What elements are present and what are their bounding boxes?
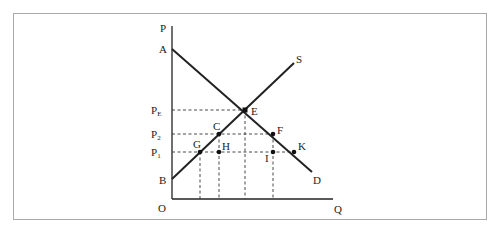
origin-label: O [158, 202, 166, 214]
point-label-k: K [298, 140, 306, 152]
price-label-p1: P1 [151, 146, 161, 160]
price-label-p2: P2 [151, 128, 161, 142]
dashed-guides [172, 110, 294, 199]
supply-demand-diagram: P Q O A D B S PE P2 P1 E C F G H I K [0, 0, 495, 228]
price-label-pe: PE [151, 104, 161, 118]
point-g [198, 150, 203, 155]
point-label-g: G [193, 138, 201, 150]
point-k [292, 150, 297, 155]
point-e [243, 108, 248, 113]
point-c [217, 132, 222, 137]
point-label-f: F [277, 124, 283, 136]
supply-curve [172, 63, 294, 179]
point-h [217, 150, 222, 155]
demand-end-label: D [313, 174, 321, 186]
point-label-h: H [222, 140, 230, 152]
x-axis-label: Q [334, 203, 342, 215]
y-axis-label: P [160, 22, 166, 34]
point-label-e: E [251, 105, 258, 117]
supply-end-label: S [296, 53, 302, 65]
point-label-c: C [213, 120, 220, 132]
point-i [271, 150, 276, 155]
point-label-i: I [265, 152, 269, 164]
demand-start-label: A [159, 43, 167, 55]
demand-curve [172, 49, 312, 172]
point-f [271, 132, 276, 137]
supply-start-label: B [159, 174, 166, 186]
